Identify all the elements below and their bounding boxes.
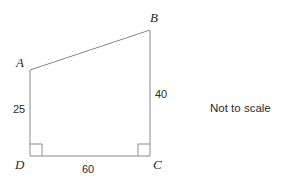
side-length-label-bc: 40 bbox=[155, 89, 167, 100]
vertex-label-c: C bbox=[153, 158, 162, 171]
vertex-label-b: B bbox=[150, 11, 158, 24]
vertex-label-a: A bbox=[16, 56, 24, 69]
figure-canvas: A B C D 25 40 60 Not to scale bbox=[0, 0, 282, 187]
side-length-label-dc: 60 bbox=[82, 164, 94, 175]
not-to-scale-note: Not to scale bbox=[210, 102, 271, 115]
side-length-label-da: 25 bbox=[13, 104, 25, 115]
geometry-diagram bbox=[0, 0, 282, 187]
right-angle-marker-d bbox=[30, 144, 42, 156]
vertex-label-d: D bbox=[15, 158, 24, 171]
segment-ab bbox=[30, 30, 150, 70]
right-angle-marker-c bbox=[138, 144, 150, 156]
